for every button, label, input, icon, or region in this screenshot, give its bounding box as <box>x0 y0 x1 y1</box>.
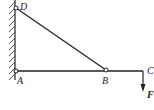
label-A: A <box>16 75 24 86</box>
label-F: F <box>146 89 154 100</box>
strut-DB <box>16 8 106 70</box>
force-F-arrow <box>141 71 146 92</box>
label-B: B <box>102 75 108 86</box>
pin-D <box>14 6 18 10</box>
label-C: C <box>147 65 154 76</box>
pin-B <box>104 68 108 72</box>
wall <box>9 0 15 80</box>
pin-A <box>14 69 18 73</box>
diagram-canvas: D A B C F <box>0 0 154 110</box>
label-D: D <box>19 1 28 12</box>
